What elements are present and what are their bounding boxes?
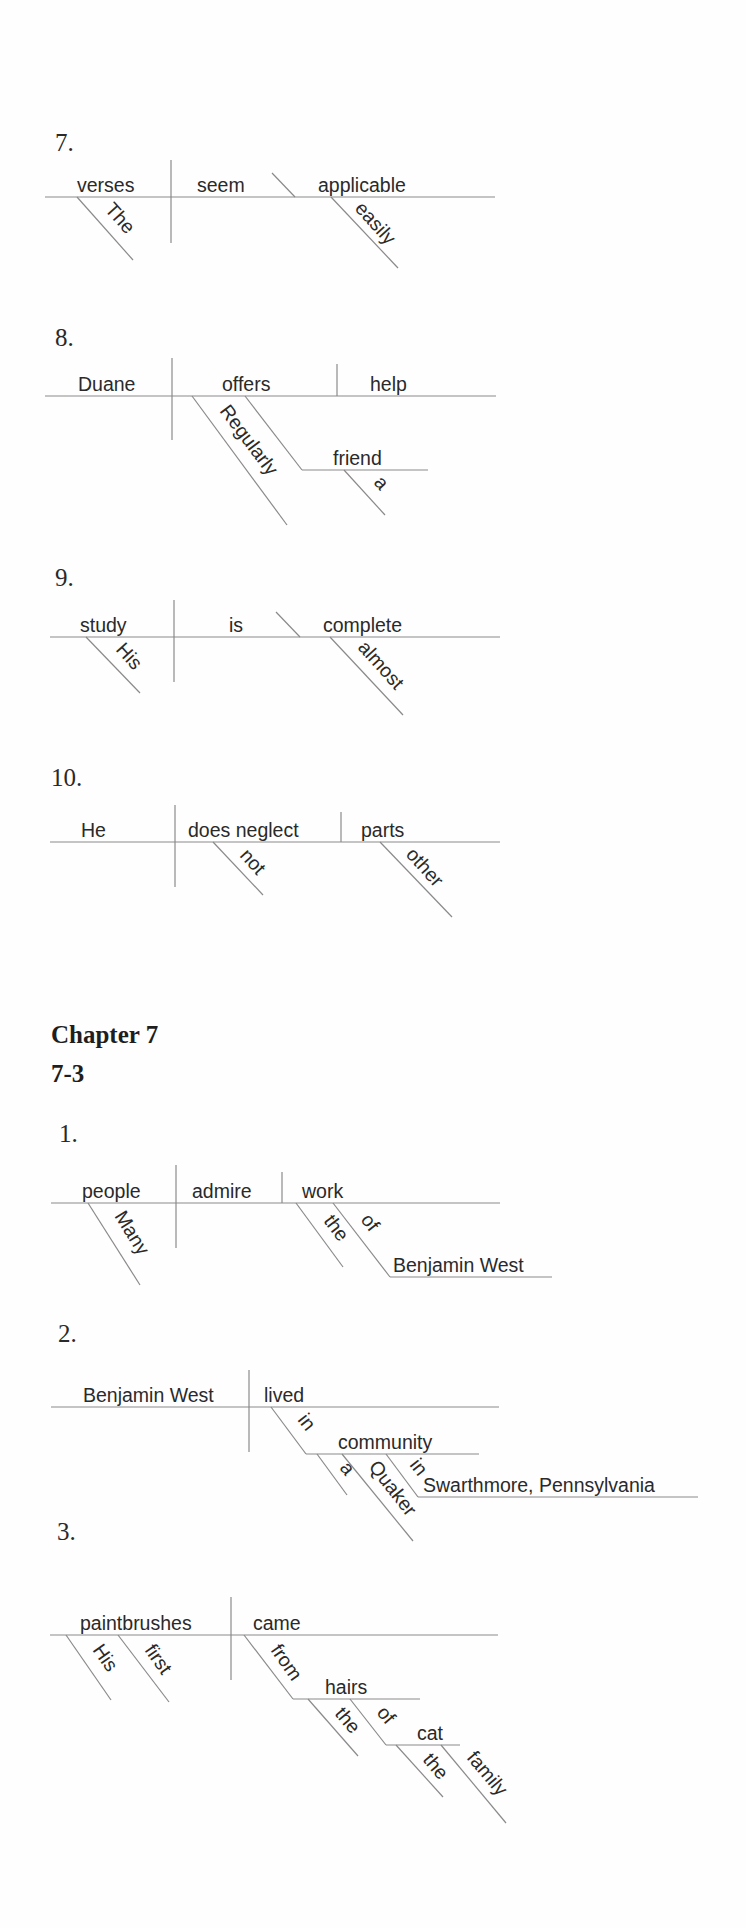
diagram-ch7-item-2: 2. Benjamin West lived community Swarthm… — [51, 1320, 698, 1541]
modifier-word: Many — [111, 1206, 155, 1258]
modifier-word: the — [331, 1702, 365, 1737]
subject-word: people — [82, 1180, 141, 1202]
diagram-item-10: 10. He does neglect parts not other — [50, 764, 500, 917]
verb-word: admire — [192, 1180, 252, 1202]
modifier-word: Regularly — [216, 400, 283, 479]
diagram-item-7: 7. verses seem applicable The easily — [45, 129, 495, 268]
direct-object-word: help — [370, 373, 407, 395]
modifier-word: a — [370, 471, 394, 494]
modifier-word: other — [402, 843, 448, 891]
diagram-ch7-item-3: 3. paintbrushes came hairs cat His first… — [50, 1518, 513, 1823]
sentence-diagrams: 7. verses seem applicable The easily 8. … — [0, 0, 746, 1928]
verb-word: seem — [197, 174, 245, 196]
item-number: 7. — [55, 129, 74, 156]
modifier-word: not — [236, 844, 271, 879]
modifier-word: a — [336, 1457, 360, 1479]
complement-word: complete — [323, 614, 402, 636]
prep-object-word: community — [338, 1431, 433, 1453]
preposition-word: from — [267, 1640, 307, 1685]
modifier-word: the — [320, 1210, 354, 1245]
modifier-word: His — [112, 638, 147, 674]
direct-object-word: parts — [361, 819, 405, 841]
verb-word: offers — [222, 373, 271, 395]
modifier-word: family — [463, 1746, 513, 1799]
prep-object-word: hairs — [325, 1676, 368, 1698]
subject-word: He — [81, 819, 106, 841]
item-number: 10. — [51, 764, 82, 791]
verb-word: is — [229, 614, 243, 636]
subject-word: paintbrushes — [80, 1612, 192, 1634]
modifier-word: The — [101, 198, 140, 238]
diagram-ch7-item-1: 1. people admire work Benjamin West Many… — [51, 1120, 552, 1285]
preposition-word: of — [373, 1701, 401, 1728]
subject-word: verses — [77, 174, 135, 196]
modifier-word: easily — [351, 197, 401, 249]
prep-object-word: cat — [417, 1722, 444, 1744]
diagram-item-9: 9. study is complete His almost — [50, 564, 500, 715]
section-heading: 7-3 — [51, 1060, 84, 1087]
indirect-object-word: friend — [333, 447, 382, 469]
complement-word: applicable — [318, 174, 406, 196]
preposition-word: in — [294, 1409, 321, 1435]
diagram-item-8: 8. Duane offers help friend Regularly a — [45, 324, 496, 525]
prep-object-word: Benjamin West — [393, 1254, 524, 1276]
item-number: 1. — [59, 1120, 78, 1147]
modifier-word: His — [89, 1640, 123, 1676]
verb-word: came — [253, 1612, 301, 1634]
item-number: 2. — [58, 1320, 77, 1347]
subject-word: Duane — [78, 373, 135, 395]
preposition-word: of — [357, 1209, 385, 1236]
item-number: 8. — [55, 324, 74, 351]
verb-word: lived — [264, 1384, 304, 1406]
verb-word: does neglect — [188, 819, 299, 841]
chapter-heading: Chapter 7 — [51, 1021, 158, 1048]
item-number: 9. — [55, 564, 74, 591]
subject-word: Benjamin West — [83, 1384, 214, 1406]
prep-object-word: Swarthmore, Pennsylvania — [423, 1474, 655, 1496]
subject-word: study — [80, 614, 127, 636]
modifier-word: almost — [354, 636, 409, 694]
item-number: 3. — [57, 1518, 76, 1545]
answer-key-page: 7. verses seem applicable The easily 8. … — [0, 0, 746, 1928]
direct-object-word: work — [301, 1180, 343, 1202]
